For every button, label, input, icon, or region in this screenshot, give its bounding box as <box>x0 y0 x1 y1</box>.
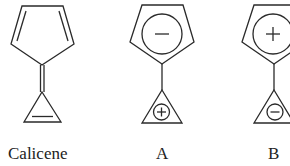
calicene-cyclopentadiene-ring <box>11 6 74 65</box>
calicene-double-bond-left <box>17 11 26 41</box>
calicene-structure <box>11 6 74 122</box>
structure-a-label: A <box>156 145 168 162</box>
structures-drawing <box>0 0 290 166</box>
a-three-ring <box>142 90 182 123</box>
structure-a <box>130 5 194 123</box>
calicene-double-bond-right <box>59 11 68 41</box>
structure-b-label: B <box>268 145 279 162</box>
resonance-structures-figure: Calicene A B <box>0 0 290 166</box>
calicene-cyclopropene-ring <box>24 92 61 122</box>
b-three-ring <box>254 90 290 123</box>
structure-b <box>242 5 290 123</box>
calicene-label: Calicene <box>8 145 67 162</box>
